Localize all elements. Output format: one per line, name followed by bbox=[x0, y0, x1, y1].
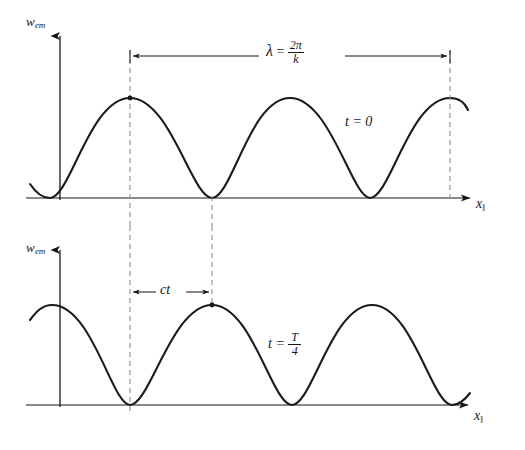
bottom-x-axis-label: x‖ bbox=[474, 408, 483, 425]
wavelength-equals: = bbox=[276, 44, 284, 59]
bottom-time-label: t = T 4 bbox=[268, 332, 301, 358]
bottom-x-axis-label-sub: ‖ bbox=[480, 414, 482, 425]
top-x-axis-label-sub: ‖ bbox=[482, 202, 484, 213]
bottom-time-denominator: 4 bbox=[288, 344, 301, 358]
wavelength-fraction: 2π k bbox=[288, 39, 304, 65]
wavelength-denominator: k bbox=[288, 52, 304, 66]
wavelength-numerator: 2π bbox=[288, 39, 304, 52]
bottom-y-axis-label-main: w bbox=[26, 240, 35, 255]
ct-label: ct bbox=[160, 282, 170, 298]
wavelength-label: λ = 2π k bbox=[266, 40, 304, 66]
top-energy-curve bbox=[30, 98, 468, 198]
top-y-axis-label: wem bbox=[26, 14, 45, 30]
bottom-time-numerator: T bbox=[288, 331, 301, 344]
bottom-time-prefix: t = bbox=[268, 336, 285, 351]
panel-top bbox=[26, 36, 470, 226]
bottom-time-fraction: T 4 bbox=[288, 331, 301, 357]
top-time-label: t = 0 bbox=[345, 114, 372, 130]
bottom-energy-curve bbox=[30, 305, 470, 405]
top-y-axis-label-main: w bbox=[26, 14, 35, 29]
bottom-y-axis-label-sub: em bbox=[35, 246, 46, 256]
bottom-peak-marker bbox=[210, 303, 215, 308]
panel-bottom bbox=[26, 226, 470, 412]
top-peak-marker bbox=[128, 96, 133, 101]
bottom-y-axis-label: wem bbox=[26, 240, 45, 256]
wave-energy-density-figure bbox=[0, 0, 525, 450]
lambda-symbol: λ bbox=[266, 42, 273, 59]
top-y-axis-label-sub: em bbox=[35, 20, 46, 30]
top-x-axis-label: x‖ bbox=[476, 196, 485, 213]
